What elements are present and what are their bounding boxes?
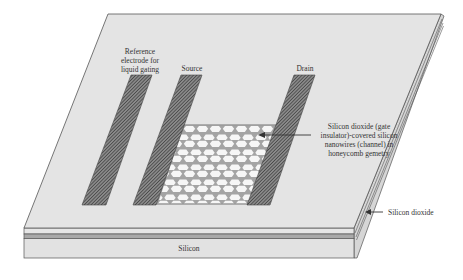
silicon-dioxide-layer [24,234,354,239]
channel-label: Silicon dioxide (gate insulator)-covered… [307,122,411,158]
top-silicon-layer [24,228,354,234]
reference-label-line-3: liquid gating [104,65,176,74]
reference-label-line-1: Reference [104,47,176,56]
slab-front-face [24,228,354,258]
drain-label: Drain [287,64,323,73]
reference-electrode-label: Reference electrode for liquid gating [104,47,176,74]
channel-label-line-1: Silicon dioxide (gate [307,122,411,131]
channel-label-line-2: insulator)-covered silicon [307,131,411,140]
silicon-dioxide-label: Silicon dioxide [388,208,434,217]
channel-label-line-3: nanowires (channel) in [307,140,411,149]
reference-label-line-2: electrode for [104,56,176,65]
silicon-label: Silicon [169,244,209,253]
source-label: Source [172,64,212,73]
channel-label-line-4: honeycomb gemetry [307,149,411,158]
